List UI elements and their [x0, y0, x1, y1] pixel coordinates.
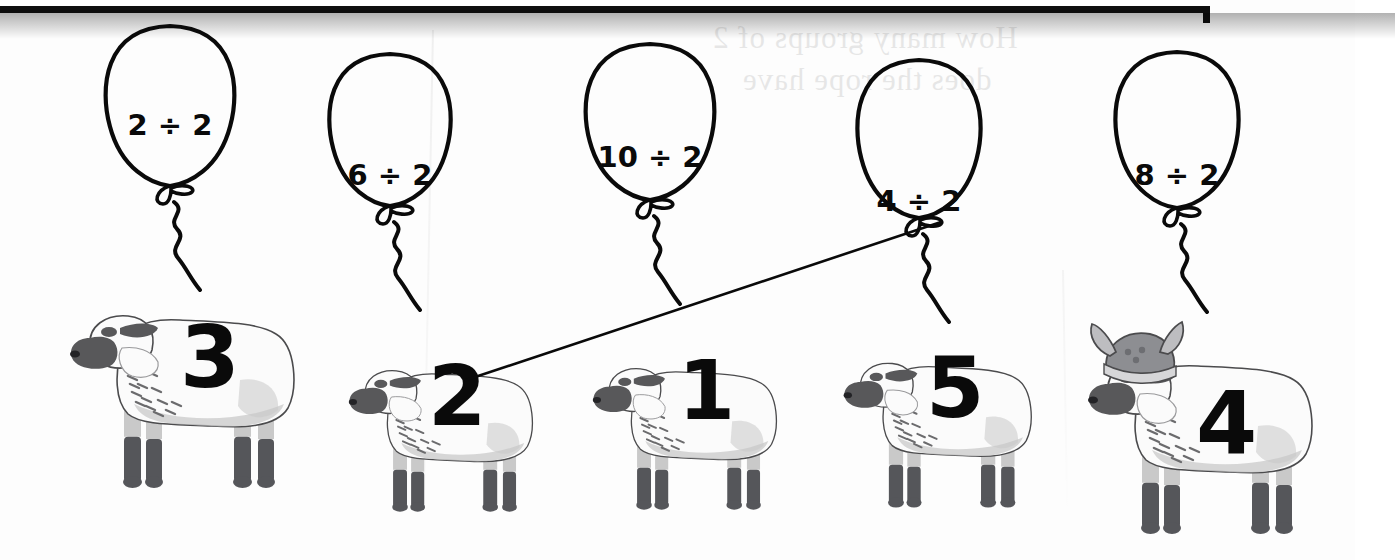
- sheep-number: 2: [428, 354, 486, 438]
- balloon-expression: 6 ÷ 2: [320, 158, 460, 192]
- viking-helmet-icon: [1091, 322, 1183, 383]
- balloon-4[interactable]: 4 ÷ 2: [848, 56, 990, 344]
- bleed-through-text-line1: How many groups of 2: [712, 20, 1018, 56]
- sheep-number: 3: [180, 314, 240, 400]
- instruction-box-bottom-border: [0, 6, 1210, 13]
- sheep-4[interactable]: 5: [820, 330, 1070, 516]
- instruction-box-corner-tick: [1203, 6, 1210, 23]
- balloon-1[interactable]: 2 ÷ 2: [96, 22, 244, 312]
- sheep-number: 4: [1196, 380, 1257, 468]
- balloon-expression: 4 ÷ 2: [848, 184, 990, 218]
- balloon-3[interactable]: 10 ÷ 2: [576, 40, 724, 326]
- sheep-1[interactable]: 3: [62, 276, 320, 498]
- balloon-expression: 8 ÷ 2: [1106, 158, 1248, 192]
- sheep-3[interactable]: 1: [570, 336, 814, 518]
- sheep-number: 1: [678, 350, 735, 432]
- balloon-expression: 10 ÷ 2: [576, 140, 724, 174]
- balloon-expression: 2 ÷ 2: [96, 108, 244, 142]
- balloon-shape-icon: [576, 40, 724, 326]
- balloon-2[interactable]: 6 ÷ 2: [320, 50, 460, 332]
- balloon-5[interactable]: 8 ÷ 2: [1106, 48, 1248, 334]
- balloon-shape-icon: [96, 22, 244, 312]
- sheep-5[interactable]: 4: [1080, 322, 1338, 544]
- sheep-2[interactable]: 2: [322, 338, 574, 520]
- sheep-number: 5: [926, 346, 984, 430]
